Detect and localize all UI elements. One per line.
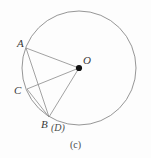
- geometry-diagram: [0, 0, 151, 158]
- segment-o-b: [49, 68, 79, 117]
- figure-caption: (c): [0, 140, 151, 150]
- geometry-figure: A O C B (D) (c): [0, 0, 151, 158]
- point-label-c: C: [14, 85, 21, 96]
- point-label-d: (D): [51, 123, 65, 133]
- center-point-marker: [76, 65, 82, 71]
- segment-a-o: [26, 48, 79, 68]
- point-label-b: B: [41, 119, 48, 130]
- point-label-a: A: [17, 38, 24, 49]
- segment-c-o: [27, 68, 79, 89]
- segment-c-b: [27, 89, 49, 117]
- point-label-o: O: [83, 55, 91, 66]
